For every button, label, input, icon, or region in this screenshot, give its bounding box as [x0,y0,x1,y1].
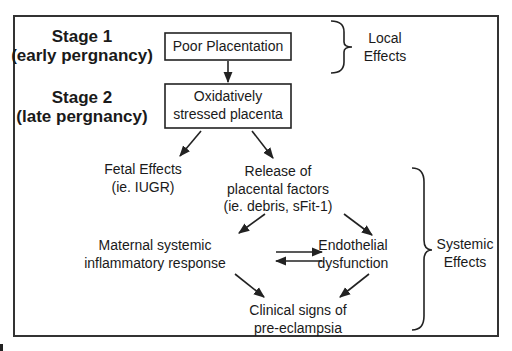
systemic-effects-line-1: Systemic [437,236,494,254]
arrow-endothelial-to-clinical [340,274,369,297]
stressed-placenta-label: Oxidatively stressed placenta [173,88,283,123]
stressed-placenta-line-1: Oxidatively [173,88,283,106]
release-factors-line-2: placental factors [224,181,333,199]
fetal-effects-node: Fetal Effects (ie. IUGR) [104,161,182,196]
stage-1-label: Stage 1 (early pergnancy) [11,27,153,65]
maternal-response-node: Maternal systemic inflammatory response [84,237,226,272]
maternal-response-line-2: inflammatory response [84,255,226,273]
fetal-effects-line-1: Fetal Effects [104,161,182,179]
diagram-canvas: Stage 1 (early pergnancy) Stage 2 (late … [0,0,512,351]
arrow-stressed-to-release [252,131,273,158]
arrow-release-to-endothelial [344,214,372,235]
endothelial-line-2: dysfunction [318,255,389,273]
release-factors-line-3: (ie. debris, sFit-1) [224,198,333,216]
local-effects-line-1: Local [364,30,407,48]
local-effects-label: Local Effects [364,30,407,65]
systemic-effects-label: Systemic Effects [437,236,494,271]
arrow-release-to-maternal [239,214,265,233]
stage-1-title: Stage 1 [11,27,153,46]
endothelial-line-1: Endothelial [318,237,389,255]
fetal-effects-line-2: (ie. IUGR) [104,179,182,197]
stage-1-subtitle: (early pergnancy) [11,46,153,65]
stage-2-label: Stage 2 (late pergnancy) [16,88,147,126]
endothelial-dysfunction-node: Endothelial dysfunction [318,237,389,272]
corner-mark [0,344,3,351]
clinical-signs-line-1: Clinical signs of [249,302,346,320]
arrow-maternal-to-clinical [235,274,264,297]
systemic-effects-line-2: Effects [437,254,494,272]
release-factors-line-1: Release of [224,163,333,181]
clinical-signs-node: Clinical signs of pre-eclampsia [249,302,346,337]
release-factors-node: Release of placental factors (ie. debris… [224,163,333,216]
poor-placentation-text: Poor Placentation [173,38,284,56]
arrow-stressed-to-fetal [180,131,201,156]
stage-2-title: Stage 2 [16,88,147,107]
local-effects-line-2: Effects [364,48,407,66]
systemic-effects-brace [412,168,432,330]
clinical-signs-line-2: pre-eclampsia [249,320,346,338]
local-effects-brace [331,21,352,73]
stressed-placenta-line-2: stressed placenta [173,106,283,124]
poor-placentation-label: Poor Placentation [173,38,284,56]
maternal-response-line-1: Maternal systemic [84,237,226,255]
stage-2-subtitle: (late pergnancy) [16,107,147,126]
